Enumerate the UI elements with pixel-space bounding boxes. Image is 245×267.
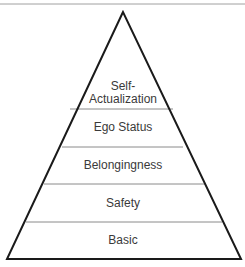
level-belongingness: Belongingness (63, 159, 183, 172)
level-ego-status: Ego Status (63, 121, 183, 134)
level-self-actualization-line2: Actualization (63, 93, 183, 106)
level-self-actualization: Self- Actualization (63, 80, 183, 106)
level-safety: Safety (63, 197, 183, 210)
level-basic: Basic (63, 234, 183, 247)
